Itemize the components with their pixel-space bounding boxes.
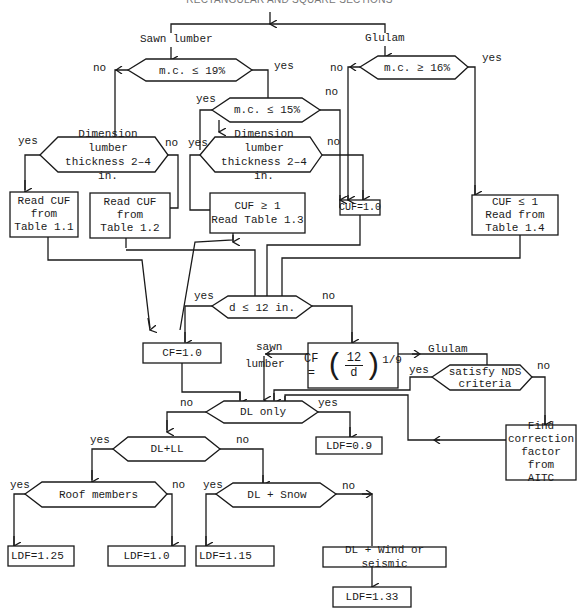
result-ldf-0-9: LDF=0.9 — [316, 437, 382, 454]
edge-label-no: no — [537, 360, 550, 373]
decision-mc-19: m.c. ≤ 19% — [146, 60, 238, 81]
decision-depth-12in: d ≤ 12 in. — [228, 297, 296, 318]
decision-dimension-lumber-left: Dimension lumber thickness 2–4 in. — [56, 137, 160, 172]
process-cuf-table-1-3: CUF ≥ 1 Read Table 1.3 — [210, 193, 305, 233]
process-find-aitc-factor: Find correction factor from AITC — [506, 425, 576, 480]
process-read-cuf-table-1-1: Read CUF from Table 1.1 — [10, 192, 78, 237]
process-dl-wind-seismic: DL + Wind or seismic — [323, 547, 446, 567]
edge-label-no: no — [322, 290, 335, 303]
edge-label-glulam: Glulam — [428, 343, 468, 356]
branch-label-sawn-lumber: Sawn lumber — [140, 33, 213, 46]
edge-label-yes: yes — [188, 137, 208, 150]
decision-mc-16: m.c. ≥ 16% — [377, 57, 457, 78]
decision-mc-15: m.c. ≤ 15% — [230, 99, 304, 121]
decision-roof-members: Roof members — [42, 483, 155, 506]
edge-label-no: no — [236, 434, 249, 447]
edge-label-yes: yes — [196, 93, 216, 106]
process-cf-formula: CF = ( 12 d ) 1/9 — [308, 343, 398, 388]
decision-dl-only: DL only — [224, 401, 302, 423]
result-ldf-1-25: LDF=1.25 — [8, 546, 74, 566]
decision-dl-snow: DL + Snow — [233, 484, 321, 506]
result-ldf-1-33: LDF=1.33 — [333, 587, 411, 607]
decision-dimension-lumber-mid: Dimension lumber thickness 2–4 in. — [212, 137, 316, 172]
decision-satisfy-nds: satisfy NDS criteria — [448, 365, 522, 390]
edge-label-yes: yes — [18, 135, 38, 148]
decision-dl-ll: DL+LL — [128, 438, 206, 460]
edge-label-yes: yes — [194, 290, 214, 303]
edge-label-yes: yes — [482, 52, 502, 65]
edge-label-no: no — [180, 397, 193, 410]
edge-label-yes: yes — [90, 434, 110, 447]
edge-label-no: no — [330, 62, 343, 75]
edge-label-no: no — [342, 480, 355, 493]
edge-label-yes: yes — [274, 60, 294, 73]
process-cf-1-0: CF=1.0 — [143, 343, 221, 363]
cf-formula: CF = ( 12 d ) 1/9 — [304, 351, 402, 381]
process-cuf-table-1-4: CUF ≤ 1 Read from Table 1.4 — [472, 195, 558, 235]
edge-label-sawn: sawn — [256, 341, 282, 354]
process-cuf-1-0: CUF=1.0 — [340, 200, 380, 215]
process-read-cuf-table-1-2: Read CUF from Table 1.2 — [90, 193, 170, 238]
edge-label-no: no — [327, 136, 340, 149]
edge-label-no: no — [325, 86, 338, 99]
edge-label-no: no — [93, 62, 106, 75]
edge-label-yes: yes — [10, 479, 30, 492]
edge-label-yes: yes — [203, 479, 223, 492]
edge-label-yes: yes — [409, 364, 429, 377]
result-ldf-1-15: LDF=1.15 — [196, 546, 274, 566]
edge-label-lumber: lumber — [245, 358, 285, 371]
result-ldf-1-0: LDF=1.0 — [108, 546, 185, 566]
edge-label-no: no — [165, 137, 178, 150]
branch-label-glulam: Glulam — [365, 32, 405, 45]
edge-label-yes: yes — [318, 397, 338, 410]
edge-label-no: no — [172, 479, 185, 492]
